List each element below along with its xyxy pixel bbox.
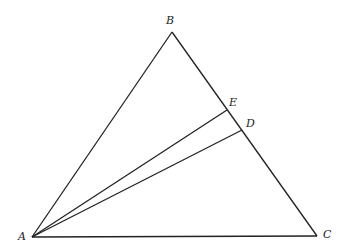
segment-AE [32,110,227,237]
segment-AD [32,130,242,237]
segment-AC [32,236,317,237]
label-A: A [17,230,26,243]
label-B: B [165,14,174,27]
triangle-diagram: A B C D E [0,0,345,250]
label-C: C [323,228,332,241]
label-E: E [228,96,237,109]
label-D: D [245,117,255,130]
segment-BC [172,32,317,236]
segment-AB [32,32,172,237]
